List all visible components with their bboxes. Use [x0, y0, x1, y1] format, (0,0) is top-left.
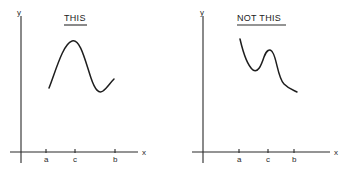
- x-axis-label: x: [142, 148, 146, 157]
- tick-label-c: c: [266, 155, 270, 164]
- panel-title: NOT THIS: [237, 13, 281, 23]
- tick-label-a: a: [44, 155, 49, 164]
- x-axis-label: x: [334, 148, 338, 157]
- diagram: y x a c b THIS y x a c b NOT THIS: [0, 0, 345, 176]
- y-axis-label: y: [200, 8, 204, 17]
- panel-title: THIS: [64, 13, 86, 23]
- panel-this: y x a c b THIS: [10, 8, 146, 164]
- tick-label-b: b: [292, 155, 297, 164]
- y-axis-label: y: [17, 8, 21, 17]
- tick-label-c: c: [73, 155, 77, 164]
- curve-wiggly: [240, 39, 297, 92]
- tick-label-b: b: [113, 155, 118, 164]
- tick-label-a: a: [237, 155, 242, 164]
- panel-not-this: y x a c b NOT THIS: [192, 8, 338, 164]
- curve-smooth: [49, 41, 114, 92]
